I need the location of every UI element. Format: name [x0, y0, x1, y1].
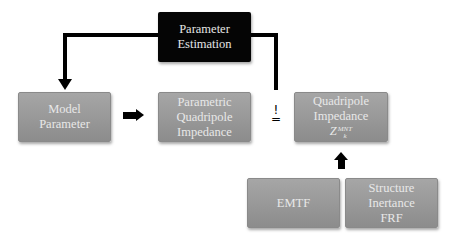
comparison-mark: ! =	[270, 106, 282, 124]
arrow-up-body	[338, 160, 345, 169]
structure-line2: Inertance	[368, 196, 415, 211]
measured-impedance-box: Quadripole Impedance ZMNTk	[294, 92, 388, 142]
parametric-line1: Parametric	[177, 95, 231, 110]
symbol-base: Z	[330, 124, 337, 138]
arrow-right-icon	[136, 109, 144, 121]
loop-line-right-vertical	[274, 33, 278, 90]
arrow-right-body	[123, 112, 136, 119]
model-line2: Parameter	[39, 117, 90, 132]
emtf-label: EMTF	[277, 196, 310, 211]
parameter-estimation-box: Parameter Estimation	[158, 12, 251, 62]
model-line1: Model	[48, 102, 81, 117]
parametric-impedance-box: Parametric Quadripole Impedance	[158, 92, 251, 142]
structure-line3: FRF	[380, 211, 402, 226]
emtf-box: EMTF	[247, 178, 340, 228]
estimation-line1: Parameter	[179, 22, 230, 37]
symbol-sub: k	[338, 133, 352, 140]
parametric-line2: Quadripole	[176, 110, 232, 125]
measured-line1: Quadripole	[313, 94, 369, 109]
equals-icon: =	[270, 115, 282, 124]
loop-arrowhead-down	[58, 79, 72, 90]
structure-line1: Structure	[369, 181, 415, 196]
parametric-line3: Impedance	[177, 125, 232, 140]
measured-line2: Impedance	[314, 109, 369, 124]
arrow-up-icon	[334, 152, 348, 160]
impedance-symbol: ZMNTk	[330, 124, 352, 139]
estimation-line2: Estimation	[177, 37, 231, 52]
model-parameter-box: Model Parameter	[18, 92, 111, 142]
loop-line-left-vertical	[63, 33, 67, 80]
structure-frf-box: Structure Inertance FRF	[345, 178, 438, 228]
loop-line-top-left	[63, 33, 159, 37]
